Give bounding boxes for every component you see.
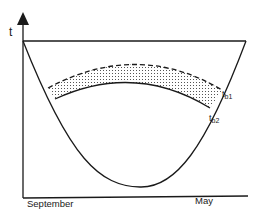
- curve-label-tb2-sub: b2: [212, 117, 220, 124]
- x-axis-label-end: May: [195, 195, 213, 206]
- x-axis-label-start: September: [27, 198, 73, 209]
- shaded-band: [48, 64, 222, 108]
- y-axis-arrow-icon: [17, 12, 29, 25]
- curve-label-tb1-sub: b1: [225, 93, 233, 100]
- y-axis-label: t: [9, 25, 13, 39]
- parabola-curve: [23, 41, 246, 187]
- diagram-canvas: t tb1 tb2 September May: [0, 0, 261, 213]
- curve-label-tb1: tb1: [222, 89, 232, 100]
